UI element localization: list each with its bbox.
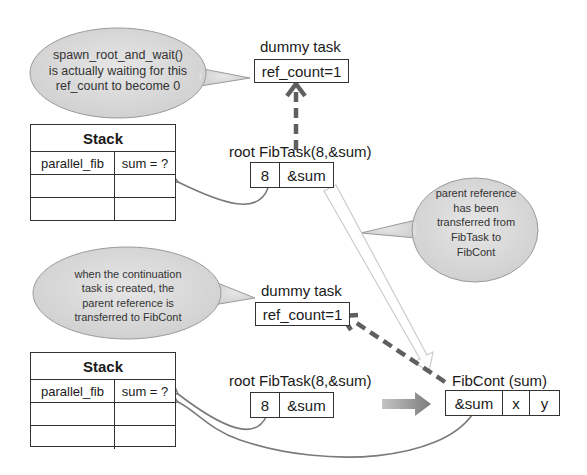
callout-line: when the continuation — [40, 267, 216, 281]
stack-cell-value — [115, 403, 175, 425]
callout-transfer-text: parent reference has been transferred fr… — [414, 186, 538, 259]
fibcont-cell-sum: &sum — [446, 391, 502, 415]
stack-cell-frame — [31, 426, 115, 449]
ref-count-value: ref_count=1 — [255, 60, 348, 82]
stack-cell-value — [115, 198, 175, 221]
root-task-label-bottom: root FibTask(8,&sum) — [229, 372, 372, 389]
stack-title: Stack — [31, 353, 175, 380]
stack-row — [31, 198, 175, 221]
callout-line: transferred to FibCont — [40, 310, 216, 324]
stack-row — [31, 175, 175, 198]
callout-line: is actually waiting for this — [33, 64, 203, 80]
stack-cell-value: sum = ? — [115, 380, 175, 402]
root-task-cell-sum: &sum — [279, 163, 333, 187]
dashed-arrow-top — [287, 84, 305, 150]
root-task-cell-sum: &sum — [279, 393, 333, 417]
callout-continuation-text: when the continuation task is created, t… — [40, 267, 216, 324]
callout-line: FibTask to — [414, 230, 538, 245]
stack-title: Stack — [31, 125, 175, 152]
dummy-task-label-top: dummy task — [260, 38, 341, 55]
stack-cell-frame — [31, 198, 115, 221]
stack-row — [31, 426, 175, 449]
fibcont-box: &sum x y — [445, 390, 560, 416]
callout-line: task is created, the — [40, 281, 216, 295]
callout-line: transferred from — [414, 215, 538, 230]
stack-cell-value — [115, 426, 175, 449]
callout-line: FibCont — [414, 245, 538, 260]
fibcont-label: FibCont (sum) — [452, 372, 547, 389]
stack-table-bottom: Stack parallel_fib sum = ? — [30, 352, 176, 447]
callout-wait-text: spawn_root_and_wait() is actually waitin… — [33, 48, 203, 95]
stack-cell-value: sum = ? — [115, 152, 175, 174]
root-task-cell-n: 8 — [251, 393, 279, 417]
dummy-task-box-bottom: ref_count=1 — [255, 302, 350, 326]
stack-cell-frame: parallel_fib — [31, 380, 115, 402]
callout-line: spawn_root_and_wait() — [33, 48, 203, 64]
stack-cell-value — [115, 175, 175, 197]
stack-cell-frame — [31, 403, 115, 425]
block-arrow-right — [382, 392, 431, 416]
callout-line: parent reference — [414, 186, 538, 201]
stack-row: parallel_fib sum = ? — [31, 152, 175, 175]
stack-cell-frame — [31, 175, 115, 197]
fibcont-cell-x: x — [502, 391, 529, 415]
callout-line: ref_count to become 0 — [33, 79, 203, 95]
fibcont-cell-y: y — [529, 391, 559, 415]
callout-line: has been — [414, 201, 538, 216]
stack-row — [31, 403, 175, 426]
dummy-task-label-bottom: dummy task — [261, 282, 342, 299]
stack-table-top: Stack parallel_fib sum = ? — [30, 124, 176, 221]
stack-cell-frame: parallel_fib — [31, 152, 115, 174]
dummy-task-box-top: ref_count=1 — [254, 59, 349, 83]
root-task-box-bottom: 8 &sum — [250, 392, 334, 418]
ref-count-value: ref_count=1 — [256, 303, 349, 325]
root-task-label-top: root FibTask(8,&sum) — [229, 143, 372, 160]
root-task-cell-n: 8 — [251, 163, 279, 187]
stack-row: parallel_fib sum = ? — [31, 380, 175, 403]
root-task-box-top: 8 &sum — [250, 162, 334, 188]
callout-line: parent reference is — [40, 296, 216, 310]
